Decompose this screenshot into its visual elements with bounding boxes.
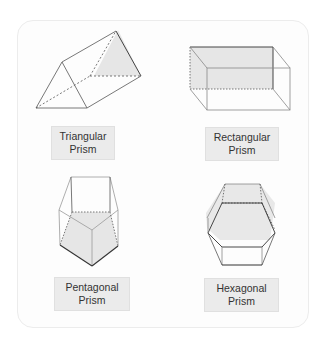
hexagonal-prism-label: Hexagonal Prism <box>204 278 279 312</box>
label-line2: Prism <box>228 295 255 308</box>
label-line2: Prism <box>70 143 97 156</box>
label-line2: Prism <box>79 294 106 307</box>
triangular-prism-label: Triangular Prism <box>51 126 115 160</box>
label-line1: Pentagonal <box>65 281 118 294</box>
label-line1: Triangular <box>60 130 107 143</box>
pentagonal-prism-label: Pentagonal Prism <box>54 277 130 311</box>
label-line2: Prism <box>229 144 256 157</box>
label-line1: Hexagonal <box>216 282 266 295</box>
rectangular-prism-label: Rectangular Prism <box>205 127 279 161</box>
label-line1: Rectangular <box>214 131 271 144</box>
